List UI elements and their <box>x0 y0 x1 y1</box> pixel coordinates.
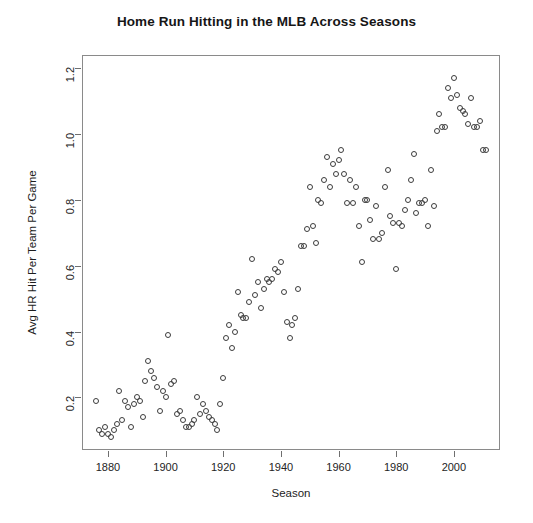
y-tick-label: 0.4 <box>64 331 76 371</box>
y-tick-label: 0.2 <box>64 396 76 436</box>
chart-title: Home Run Hitting in the MLB Across Seaso… <box>0 14 533 29</box>
x-tick-label: 1880 <box>85 461 131 473</box>
x-tick-label: 1920 <box>200 461 246 473</box>
y-tick-label: 1.0 <box>64 133 76 173</box>
x-tick-mark <box>223 451 224 457</box>
x-tick-mark <box>339 451 340 457</box>
y-tick-label: 0.6 <box>64 265 76 305</box>
x-tick-label: 1940 <box>258 461 304 473</box>
x-tick-mark <box>108 451 109 457</box>
x-tick-label: 1980 <box>373 461 419 473</box>
x-tick-label: 2000 <box>431 461 477 473</box>
scatter-plot-figure: Home Run Hitting in the MLB Across Seaso… <box>0 0 533 523</box>
x-tick-mark <box>396 451 397 457</box>
x-tick-label: 1960 <box>316 461 362 473</box>
plot-area <box>82 55 500 450</box>
y-tick-label: 1.2 <box>64 67 76 107</box>
x-axis-title: Season <box>82 487 500 499</box>
x-tick-mark <box>454 451 455 457</box>
x-tick-mark <box>281 451 282 457</box>
y-axis-title: Avg HR Hit Per Team Per Game <box>26 55 38 450</box>
y-tick-label: 0.8 <box>64 199 76 239</box>
x-tick-label: 1900 <box>143 461 189 473</box>
x-tick-mark <box>166 451 167 457</box>
